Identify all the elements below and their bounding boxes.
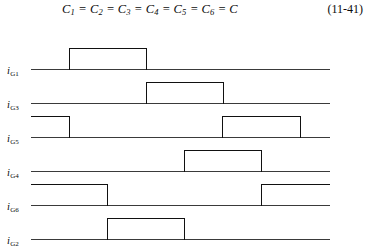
pulse-ig3-1 — [146, 82, 224, 104]
pulse-ig6-2 — [261, 184, 330, 206]
equation-subscript-4: 4 — [154, 7, 158, 17]
label-subscript: G2 — [10, 240, 19, 248]
pulse-ig5-1 — [31, 116, 70, 138]
waveform-row-ig3: iG3 — [0, 70, 372, 104]
waveform-row-ig5: iG5 — [0, 104, 372, 138]
axis-label-ig2: iG2 — [7, 236, 18, 247]
pulse-ig1-1 — [69, 48, 147, 70]
pulse-ig4-1 — [184, 150, 262, 172]
equation-symbol-c: C — [201, 2, 210, 16]
equation-subscript-2: 2 — [98, 7, 102, 17]
equals-sign: = — [78, 2, 90, 16]
equation-term-c6: C6 — [201, 2, 214, 16]
equals-sign: = — [162, 2, 174, 16]
pulse-ig5-2 — [222, 116, 301, 138]
waveform-row-ig6: iG6 — [0, 172, 372, 206]
equation-expression: C1 = C2 = C3 = C4 = C5 = C6 = C — [62, 2, 238, 17]
equation-subscript-6: 6 — [210, 7, 214, 17]
waveform-row-ig1: iG1 — [0, 36, 372, 70]
equation-term-c2: C2 — [90, 2, 103, 16]
equation-number: (11-41) — [327, 2, 363, 17]
equation-term-c5: C5 — [174, 2, 187, 16]
equation-term-c: C — [229, 2, 238, 16]
equals-sign: = — [134, 2, 146, 16]
waveform-row-ig4: iG4 — [0, 138, 372, 172]
equation-subscript-1: 1 — [71, 7, 75, 17]
waveform-plot: iG1 iG3 iG5 iG4 iG6 iG2 — [0, 36, 372, 244]
equation-symbol-c: C — [62, 2, 71, 16]
equation-symbol-c: C — [174, 2, 183, 16]
equation-term-c1: C1 — [62, 2, 75, 16]
equation-term-c3: C3 — [118, 2, 131, 16]
equation-subscript-3: 3 — [126, 7, 130, 17]
equals-sign: = — [190, 2, 202, 16]
equals-sign: = — [218, 2, 230, 16]
equation-row: C1 = C2 = C3 = C4 = C5 = C6 = C (11-41) — [0, 2, 372, 24]
waveform-row-ig2: iG2 — [0, 206, 372, 240]
equation-subscript-5: 5 — [182, 7, 186, 17]
equals-sign: = — [106, 2, 118, 16]
pulse-ig6-1 — [31, 184, 108, 206]
equation-term-c4: C4 — [146, 2, 159, 16]
pulse-ig2-1 — [107, 218, 185, 240]
equation-symbol-c: C — [146, 2, 155, 16]
